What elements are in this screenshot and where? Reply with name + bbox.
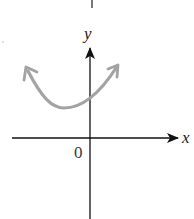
graph-canvas [0,0,194,219]
x-axis-label: x [182,129,190,146]
speck-mark [2,41,4,43]
parabola-curve [28,68,116,108]
origin-label: 0 [74,144,83,161]
coordinate-graph: y x 0 [0,0,194,219]
y-axis-label: y [84,25,92,42]
